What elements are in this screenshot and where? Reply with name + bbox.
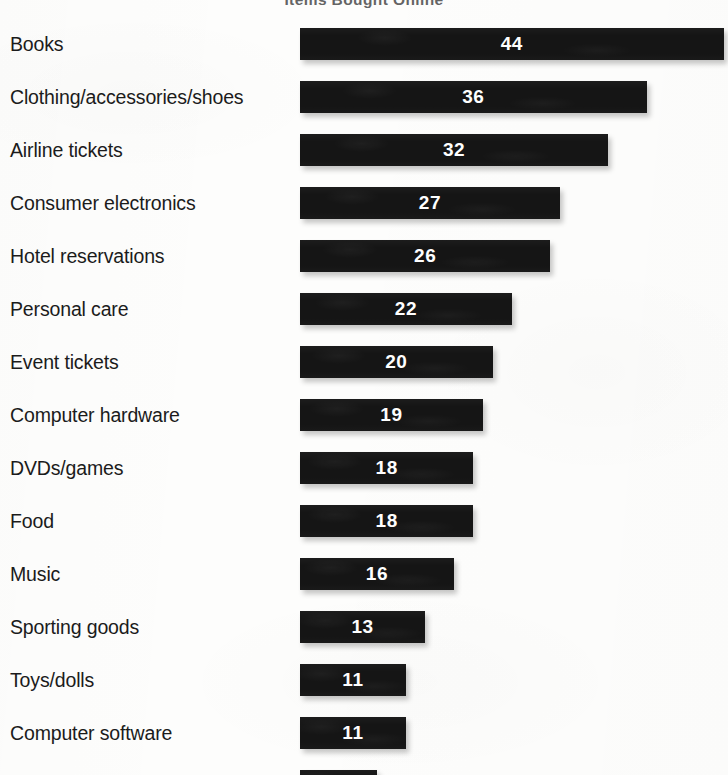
bar-value-label: 11 [300,664,406,696]
category-label: Computer software [10,717,172,749]
bar-row: Computer software11 [0,717,728,749]
bar-value-label: 19 [300,399,483,431]
category-label: Clothing/accessories/shoes [10,81,243,113]
bar-row: Event tickets20 [0,346,728,378]
category-label: DVDs/games [10,452,123,484]
bar-row: Toys/dolls11 [0,664,728,696]
bar-value-label: 22 [300,293,512,325]
category-label: Toys/dolls [10,664,94,696]
bar-row: Sporting goods13 [0,611,728,643]
bar-row: Computer hardware19 [0,399,728,431]
category-label: Consumer electronics [10,187,196,219]
bar-row: Clothing/accessories/shoes36 [0,81,728,113]
category-label: Sporting goods [10,611,139,643]
bar-row: Consumer electronics27 [0,187,728,219]
bar-value-label: 11 [300,717,406,749]
category-label: Flowers [10,770,77,775]
bar-value-label: 18 [300,505,473,537]
category-label: Personal care [10,293,128,325]
bar-value-label: 13 [300,611,425,643]
bar-value-label: 16 [300,558,454,590]
bar-value-label: 20 [300,346,493,378]
category-label: Hotel reservations [10,240,164,272]
category-label: Music [10,558,60,590]
bar-value-label: 8 [300,770,377,775]
bar-row: Books44 [0,28,728,60]
bar-value-label: 44 [300,28,724,60]
category-label: Food [10,505,54,537]
bar-value-label: 18 [300,452,473,484]
bar-value-label: 36 [300,81,647,113]
category-label: Books [10,28,63,60]
bar-chart-plot-area: Books44Clothing/accessories/shoes36Airli… [0,0,728,775]
bar-row: Airline tickets32 [0,134,728,166]
bar-row: Music16 [0,558,728,590]
bar-row: Flowers8 [0,770,728,775]
bar-value-label: 32 [300,134,608,166]
bar-row: Hotel reservations26 [0,240,728,272]
bar-value-label: 27 [300,187,560,219]
bar-value-label: 26 [300,240,550,272]
chart-page: Items Bought Online Books44Clothing/acce… [0,0,728,775]
category-label: Airline tickets [10,134,123,166]
bar-row: Personal care22 [0,293,728,325]
category-label: Computer hardware [10,399,180,431]
category-label: Event tickets [10,346,119,378]
bar-row: DVDs/games18 [0,452,728,484]
bar-row: Food18 [0,505,728,537]
